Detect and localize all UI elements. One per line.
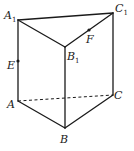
label-b: B: [59, 133, 68, 146]
edge-a1-c1: [18, 13, 113, 20]
prism-diagram: A1 C1 B1 E F A B C: [0, 0, 134, 151]
edge-a-b: [18, 101, 65, 128]
edge-a1-b1: [18, 20, 65, 47]
label-e: E: [6, 59, 15, 72]
label-a1: A1: [3, 9, 16, 24]
point-f-marker: [87, 28, 90, 31]
edge-b-c: [65, 95, 113, 128]
label-c: C: [114, 89, 123, 102]
label-b1: B1: [66, 50, 80, 65]
label-c1: C1: [115, 2, 128, 17]
point-e-marker: [16, 59, 19, 62]
label-f: F: [85, 33, 94, 46]
label-a: A: [6, 98, 15, 111]
